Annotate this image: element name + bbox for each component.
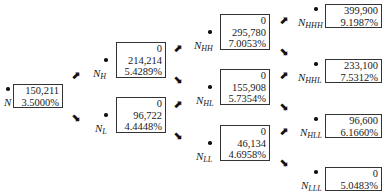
node-nhl-option: 0 — [224, 70, 266, 82]
node-nhh-label: NHH — [194, 39, 213, 55]
node-nhhh-rate: 9.1987% — [329, 17, 378, 29]
node-nhhl-rate: 7.5312% — [329, 72, 378, 84]
node-nlll-box: 0 5.0483% — [325, 167, 382, 191]
arrow-down-icon: ⬊ — [173, 130, 182, 141]
node-nll-option: 0 — [224, 126, 266, 138]
node-nhll-dot — [314, 117, 318, 121]
node-nhl-dot — [208, 85, 212, 89]
node-nhh-option: 0 — [224, 15, 266, 27]
node-nhll-value: 96,600 — [329, 115, 378, 127]
node-nhll-rate: 6.1660% — [329, 127, 378, 139]
node-nhl-rate: 5.7354% — [224, 93, 266, 105]
arrow-up-icon: ⬈ — [71, 70, 80, 81]
node-nl-box: 0 96,722 4.4448% — [116, 97, 166, 133]
node-n-label: N — [4, 96, 11, 112]
node-nlll-rate: 5.0483% — [329, 180, 378, 192]
node-nh-option: 0 — [120, 43, 162, 55]
arrow-down-icon: ⬊ — [279, 157, 288, 168]
node-nhh-rate: 7.0053% — [224, 38, 266, 50]
node-nhll-label: NHLL — [300, 126, 322, 142]
node-nhhl-box: 233,100 7.5312% — [325, 59, 382, 83]
node-nhll-box: 96,600 6.1660% — [325, 114, 382, 138]
node-n-rate: 3.5000% — [17, 97, 59, 109]
node-nh-label: NH — [93, 67, 106, 83]
node-nhh-box: 0 295,780 7.0053% — [220, 14, 270, 50]
node-nh-rate: 5.4289% — [120, 66, 162, 78]
node-nhl-box: 0 155,908 5.7354% — [220, 69, 270, 105]
node-nl-dot — [104, 113, 108, 117]
arrow-up-icon: ⬈ — [279, 70, 288, 81]
node-nhhh-label: NHHH — [298, 16, 323, 32]
node-nll-value: 46,134 — [224, 138, 266, 150]
arrow-up-icon: ⬈ — [279, 15, 288, 26]
node-nhhl-value: 233,100 — [329, 60, 378, 72]
node-nhh-dot — [208, 30, 212, 34]
node-nh-value: 214,214 — [120, 55, 162, 67]
node-nh-dot — [104, 58, 108, 62]
node-nlll-label: NLLL — [301, 179, 322, 193]
arrow-down-icon: ⬊ — [71, 112, 80, 123]
node-n-box: 150,211 3.5000% — [13, 84, 63, 108]
node-n-dot — [6, 87, 10, 91]
node-nl-option: 0 — [120, 98, 162, 110]
node-nhhh-box: 399,900 9.1987% — [325, 4, 382, 28]
node-nll-label: NLL — [196, 150, 212, 166]
node-nhl-label: NHL — [196, 94, 214, 110]
arrow-up-icon: ⬈ — [173, 43, 182, 54]
arrow-up-icon: ⬈ — [279, 126, 288, 137]
node-nhhh-dot — [314, 7, 318, 11]
node-nl-rate: 4.4448% — [120, 121, 162, 133]
node-nhhl-dot — [314, 62, 318, 66]
node-nh-box: 0 214,214 5.4289% — [116, 42, 166, 78]
node-nll-rate: 4.6958% — [224, 149, 266, 161]
node-nll-box: 0 46,134 4.6958% — [220, 125, 270, 161]
node-nl-value: 96,722 — [120, 110, 162, 122]
node-nlll-option: 0 — [329, 168, 378, 180]
node-nl-label: NL — [95, 122, 107, 138]
node-nhl-value: 155,908 — [224, 82, 266, 94]
node-n-value: 150,211 — [17, 85, 59, 97]
arrow-up-icon: ⬈ — [173, 99, 182, 110]
node-nlll-dot — [314, 170, 318, 174]
arrow-down-icon: ⬊ — [173, 74, 182, 85]
arrow-down-icon: ⬊ — [279, 46, 288, 57]
node-nhhl-label: NHHL — [298, 71, 321, 87]
node-nll-dot — [208, 141, 212, 145]
arrow-down-icon: ⬊ — [279, 101, 288, 112]
node-nhhh-value: 399,900 — [329, 5, 378, 17]
node-nhh-value: 295,780 — [224, 27, 266, 39]
